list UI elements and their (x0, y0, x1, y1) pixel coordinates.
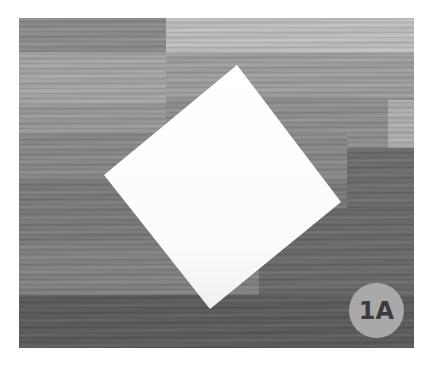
badge-label: 1A (359, 299, 394, 323)
label-badge: 1A (349, 283, 404, 338)
